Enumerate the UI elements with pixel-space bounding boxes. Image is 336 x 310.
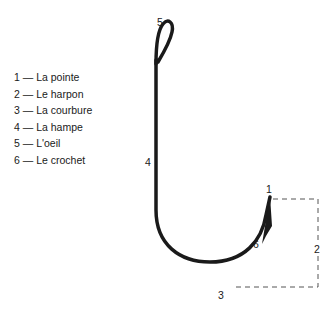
hook-body <box>156 60 270 262</box>
callout-point: 1 <box>266 183 272 195</box>
fish-hook-drawing <box>0 0 336 310</box>
callout-barb-height: 2 <box>314 243 320 255</box>
callout-barb: 6 <box>253 238 259 250</box>
callout-eye: 5 <box>157 16 163 28</box>
callout-bend: 3 <box>218 289 224 301</box>
barb-dimension <box>236 199 318 287</box>
callout-shank: 4 <box>145 156 151 168</box>
